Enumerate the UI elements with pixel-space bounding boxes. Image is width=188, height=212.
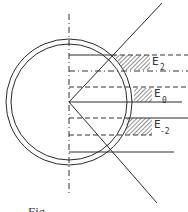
hatch-region-e0	[134, 88, 152, 102]
label-e2-sub: 2	[160, 63, 165, 72]
label-e0: E	[154, 87, 161, 100]
hatch-region-e2	[113, 55, 150, 70]
label-e2: E	[152, 55, 159, 68]
label-em2-sub: -2	[160, 127, 170, 136]
hatch-region-em2	[125, 118, 152, 135]
diagram: E 2 E 0 E -2 Fig...	[0, 0, 188, 212]
upper-diagonal	[69, 3, 162, 102]
label-e0-sub: 0	[162, 96, 167, 105]
caption-partial: Fig...	[28, 204, 55, 212]
